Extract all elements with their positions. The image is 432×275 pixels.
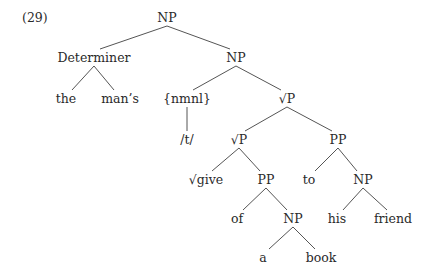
tree-node-label: the [56, 91, 76, 106]
tree-node-label: book [306, 250, 337, 265]
tree-node-label: NP [283, 211, 302, 226]
tree-node-label: {nmnl} [163, 91, 211, 106]
tree-node-label: PP [330, 132, 347, 147]
tree-edge [245, 107, 287, 131]
tree-node-label: his [328, 211, 346, 226]
tree-node-label: /t/ [180, 132, 194, 147]
tree-edge [269, 227, 293, 249]
tree-edge [100, 26, 167, 49]
tree-node-label: PP [258, 172, 275, 187]
tree-node-label: NP [353, 172, 372, 187]
tree-node-label: man’s [101, 91, 139, 106]
tree-nodes: NPDeterminerNPtheman’s{nmnl}√P/t/√PPP√gi… [56, 10, 412, 265]
tree-node-label: NP [226, 50, 245, 65]
tree-node-label: of [231, 211, 245, 226]
tree-edge [72, 66, 94, 90]
tree-edge [239, 148, 260, 171]
tree-edge [266, 188, 287, 210]
tree-edge [287, 107, 332, 131]
tree-node-label: Determiner [57, 50, 130, 65]
tree-edge [243, 188, 266, 210]
tree-edge [363, 188, 387, 210]
tree-edge [293, 227, 315, 249]
tree-node-label: friend [374, 211, 412, 226]
tree-edge [338, 148, 357, 171]
tree-node-label: to [303, 172, 316, 187]
tree-node-label: NP [157, 10, 176, 25]
tree-node-label: √give [189, 172, 223, 187]
tree-edge [236, 66, 281, 90]
tree-node-label: a [259, 250, 267, 265]
tree-edge [193, 66, 236, 90]
tree-node-label: √P [279, 91, 295, 106]
syntax-tree-diagram: (29) NPDeterminerNPtheman’s{nmnl}√P/t/√P… [0, 0, 432, 275]
tree-edge [167, 26, 230, 49]
tree-edge [343, 188, 363, 210]
tree-edge [212, 148, 239, 171]
tree-edge [315, 148, 338, 171]
tree-edge [94, 66, 114, 90]
example-number: (29) [22, 10, 48, 25]
tree-node-label: √P [231, 132, 247, 147]
